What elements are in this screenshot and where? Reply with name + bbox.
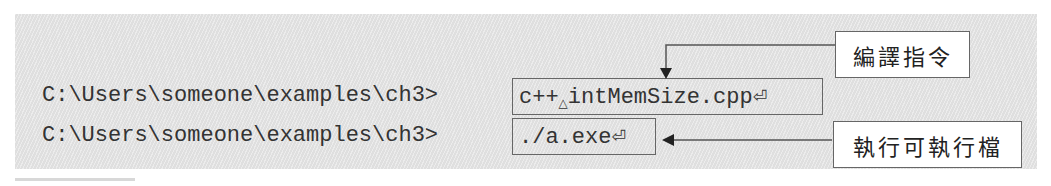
run-executable-label: 執行可執行檔 (833, 121, 1022, 168)
compile-command-label: 編譯指令 (835, 31, 970, 78)
arrow-down-icon (660, 68, 672, 79)
divider (15, 178, 135, 181)
compile-arrow-line (666, 45, 835, 70)
arrow-left-icon (662, 134, 674, 146)
